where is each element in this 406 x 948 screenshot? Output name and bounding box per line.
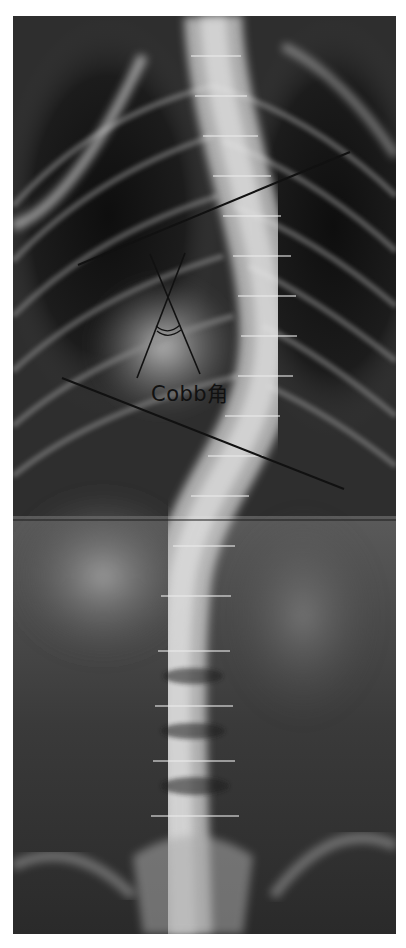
xray-image bbox=[13, 16, 396, 934]
cobb-angle-label: Cobb角 bbox=[151, 377, 229, 407]
xray-anatomy bbox=[13, 16, 396, 934]
abdominal-soft-tissue bbox=[223, 506, 383, 726]
sacrum bbox=[133, 836, 253, 934]
